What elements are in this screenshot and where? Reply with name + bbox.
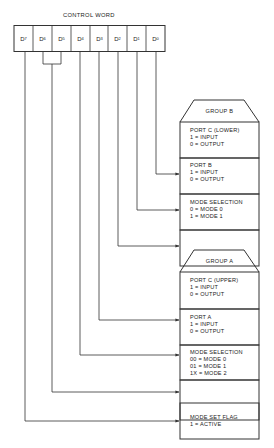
mode-selection-a-line2: 01 = MODE 1: [190, 363, 226, 370]
port-c-upper-line1: 1 = INPUT: [190, 284, 218, 291]
diagram-lines: [0, 0, 274, 448]
bit-d1: D1: [127, 26, 146, 51]
port-c-lower-line2: 0 = OUTPUT: [190, 141, 224, 148]
mode-selection-b-line1: 0 = MODE 0: [190, 206, 223, 213]
port-b-line2: 0 = OUTPUT: [190, 176, 224, 183]
port-a-line1: 1 = INPUT: [190, 321, 218, 328]
group-a-header: GROUP A: [180, 258, 259, 264]
bit-d5: D5: [52, 26, 71, 51]
mode-set-flag-line1: 1 = ACTIVE: [190, 421, 221, 428]
bit-d3: D3: [90, 26, 109, 51]
bit-d6: D6: [33, 26, 52, 51]
mode-selection-b-line2: 1 = MODE 1: [190, 213, 223, 220]
port-c-lower-line1: 1 = INPUT: [190, 134, 218, 141]
bit-d4: D4: [71, 26, 90, 51]
mode-selection-a-line1: 00 = MODE 0: [190, 356, 226, 363]
mode-selection-a-title: MODE SELECTION: [190, 349, 243, 356]
port-c-upper-title: PORT C (UPPER): [190, 277, 238, 284]
control-word-title: CONTROL WORD: [63, 12, 115, 18]
bit-d0: D0: [146, 26, 165, 51]
port-b-title: PORT B: [190, 162, 212, 169]
port-c-lower-title: PORT C (LOWER): [190, 127, 240, 134]
mode-selection-b-title: MODE SELECTION: [190, 199, 243, 206]
port-a-line2: 0 = OUTPUT: [190, 328, 224, 335]
port-a-title: PORT A: [190, 314, 212, 321]
bit-d2: D2: [108, 26, 127, 51]
port-c-upper-line2: 0 = OUTPUT: [190, 291, 224, 298]
port-b-line1: 1 = INPUT: [190, 169, 218, 176]
group-b-header: GROUP B: [180, 108, 259, 114]
mode-set-flag-title: MODE SET FLAG: [190, 414, 238, 421]
bit-d7: D7: [14, 26, 33, 51]
mode-selection-a-line3: 1X = MODE 2: [190, 370, 227, 377]
